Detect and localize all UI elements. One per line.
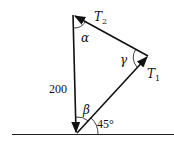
alpha-arc [73, 22, 85, 29]
force-triangle-diagram: T2 α γ T1 200 β 45° [0, 0, 174, 157]
t2-label: T2 [94, 10, 107, 26]
beta-arc [76, 117, 89, 121]
beta-label: β [82, 103, 90, 117]
t1-label: T1 [147, 67, 160, 83]
weight-vector [73, 15, 76, 132]
ground-angle-label: 45° [97, 117, 114, 131]
gamma-arc [133, 49, 137, 67]
weight-label: 200 [49, 82, 67, 96]
gamma-label: γ [120, 53, 128, 67]
alpha-label: α [81, 31, 89, 45]
